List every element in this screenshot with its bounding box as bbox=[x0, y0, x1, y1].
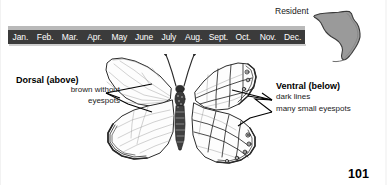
dorsal-line-1: brown without bbox=[16, 85, 120, 96]
ventral-wings-right bbox=[192, 63, 256, 163]
month-aug: Aug. bbox=[181, 30, 206, 44]
month-oct: Oct. bbox=[231, 30, 256, 44]
florida-state-map bbox=[313, 5, 377, 63]
month-feb: Feb. bbox=[33, 30, 58, 44]
flight-period-bar-shadow bbox=[9, 44, 306, 46]
page-edge-left bbox=[0, 0, 1, 185]
month-mar: Mar. bbox=[58, 30, 83, 44]
ventral-line-2: many small eyespots bbox=[276, 103, 386, 115]
dorsal-line-2: eyespots bbox=[16, 96, 120, 107]
month-sep: Sept. bbox=[206, 30, 231, 44]
month-jun: June bbox=[132, 30, 157, 44]
month-scale: Jan. Feb. Mar. Apr. May June July Aug. S… bbox=[8, 30, 305, 44]
month-may: May bbox=[107, 30, 132, 44]
dorsal-wings-left bbox=[106, 58, 174, 159]
month-jan: Jan. bbox=[8, 30, 33, 44]
month-dec: Dec. bbox=[280, 30, 305, 44]
ventral-annotation: Ventral (below) dark lines many small ey… bbox=[276, 81, 386, 114]
ventral-heading: Ventral (below) bbox=[276, 81, 386, 91]
field-guide-page: Jan. Feb. Mar. Apr. May June July Aug. S… bbox=[0, 0, 387, 185]
ventral-line-1: dark lines bbox=[276, 91, 386, 103]
month-jul: July bbox=[157, 30, 182, 44]
month-nov: Nov. bbox=[256, 30, 281, 44]
flight-period-bar: Jan. Feb. Mar. Apr. May June July Aug. S… bbox=[8, 26, 305, 46]
dorsal-heading: Dorsal (above) bbox=[16, 75, 120, 85]
dorsal-annotation: Dorsal (above) brown without eyespots bbox=[16, 75, 120, 106]
butterfly-specimen-illustration bbox=[100, 54, 278, 170]
page-number: 101 bbox=[348, 167, 369, 181]
month-apr: Apr. bbox=[82, 30, 107, 44]
residency-status-label: Resident bbox=[275, 6, 309, 16]
